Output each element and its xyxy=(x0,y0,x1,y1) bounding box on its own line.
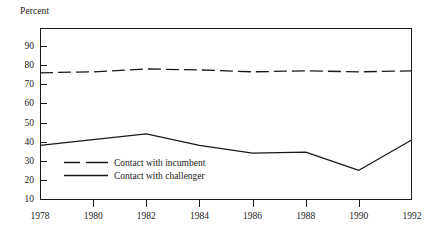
x-tick-mark xyxy=(306,200,307,207)
legend-label-challenger: Contact with challenger xyxy=(114,171,205,181)
y-tick-mark xyxy=(40,161,47,162)
solid-line-icon xyxy=(64,171,108,180)
y-tick-label: 70 xyxy=(10,79,34,89)
y-tick-label: 20 xyxy=(10,175,34,185)
x-tick-label: 1992 xyxy=(403,211,422,221)
y-tick-label: 40 xyxy=(10,137,34,147)
y-tick-mark xyxy=(40,142,47,143)
x-tick-label: 1986 xyxy=(243,211,262,221)
y-tick-label: 10 xyxy=(10,194,34,204)
x-tick-label: 1982 xyxy=(137,211,156,221)
y-tick-label-group: 908070605040302010 xyxy=(8,0,34,231)
y-tick-mark xyxy=(40,84,47,85)
legend-item-incumbent: Contact with incumbent xyxy=(64,156,205,169)
y-tick-label: 90 xyxy=(10,41,34,51)
y-tick-label: 30 xyxy=(10,156,34,166)
y-tick-mark xyxy=(40,46,47,47)
y-tick-mark xyxy=(40,65,47,66)
x-tick-mark xyxy=(359,200,360,207)
x-tick-label: 1980 xyxy=(84,211,103,221)
dashed-line-icon xyxy=(64,158,108,167)
legend-label-incumbent: Contact with incumbent xyxy=(114,158,205,168)
x-tick-label: 1988 xyxy=(296,211,315,221)
y-tick-label: 80 xyxy=(10,60,34,70)
y-tick-mark xyxy=(40,180,47,181)
y-tick-mark xyxy=(40,103,47,104)
legend-item-challenger: Contact with challenger xyxy=(64,169,205,182)
y-tick-mark xyxy=(40,123,47,124)
chart-legend: Contact with incumbent Contact with chal… xyxy=(64,156,205,182)
y-tick-label: 60 xyxy=(10,98,34,108)
x-tick-mark xyxy=(93,200,94,207)
x-tick-mark xyxy=(146,200,147,207)
x-tick-mark xyxy=(199,200,200,207)
x-tick-label: 1984 xyxy=(190,211,209,221)
x-tick-mark xyxy=(253,200,254,207)
percent-line-chart: Percent 908070605040302010 1978198019821… xyxy=(0,0,428,231)
y-tick-label: 50 xyxy=(10,118,34,128)
y-tick-mark xyxy=(40,199,47,200)
x-tick-label: 1978 xyxy=(31,211,50,221)
x-tick-label: 1990 xyxy=(349,211,368,221)
